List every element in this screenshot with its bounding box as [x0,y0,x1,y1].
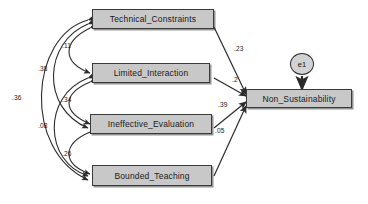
coefficient-corr-tc-li: .11 [62,42,71,49]
coefficient-path-ie-ns: .39 [218,101,227,108]
coefficient-corr-li-ie: .34 [62,96,71,103]
sem-path-diagram: Technical_Constraints Limited_Interactio… [0,0,368,204]
node-label-technical-constraints: Technical_Constraints [110,14,196,24]
coefficient-corr-ie-bt: .26 [62,150,71,157]
path-arrow-tc-ns [214,27,246,94]
coefficient-path-li-ns: .2 [232,76,238,83]
coefficient-corr-tc-bt: .36 [12,94,21,101]
node-ineffective-evaluation[interactable]: Ineffective_Evaluation [90,114,212,134]
correlation-curve-tc-li [69,28,90,73]
correlation-curve-tc-ie [53,24,88,128]
node-error-e1[interactable]: e1 [290,53,314,75]
node-label-non-sustainability: Non_Sustainability [262,94,335,104]
coefficient-corr-li-bt: .08 [38,122,47,129]
node-bounded-teaching[interactable]: Bounded_Teaching [92,165,212,186]
node-technical-constraints[interactable]: Technical_Constraints [92,9,214,29]
node-label-e1: e1 [298,60,306,69]
path-arrow-bt-ns [214,106,246,176]
node-label-ineffective-evaluation: Ineffective_Evaluation [108,119,194,129]
coefficient-corr-tc-ie: .38 [38,65,47,72]
node-limited-interaction[interactable]: Limited_Interaction [92,63,210,83]
coefficient-path-tc-ns: .23 [234,45,243,52]
node-non-sustainability[interactable]: Non_Sustainability [246,89,352,108]
path-arrow-li-ns [214,78,246,96]
coefficient-path-bt-ns: .05 [215,127,224,134]
node-label-bounded-teaching: Bounded_Teaching [114,171,189,181]
node-label-limited-interaction: Limited_Interaction [114,68,189,78]
